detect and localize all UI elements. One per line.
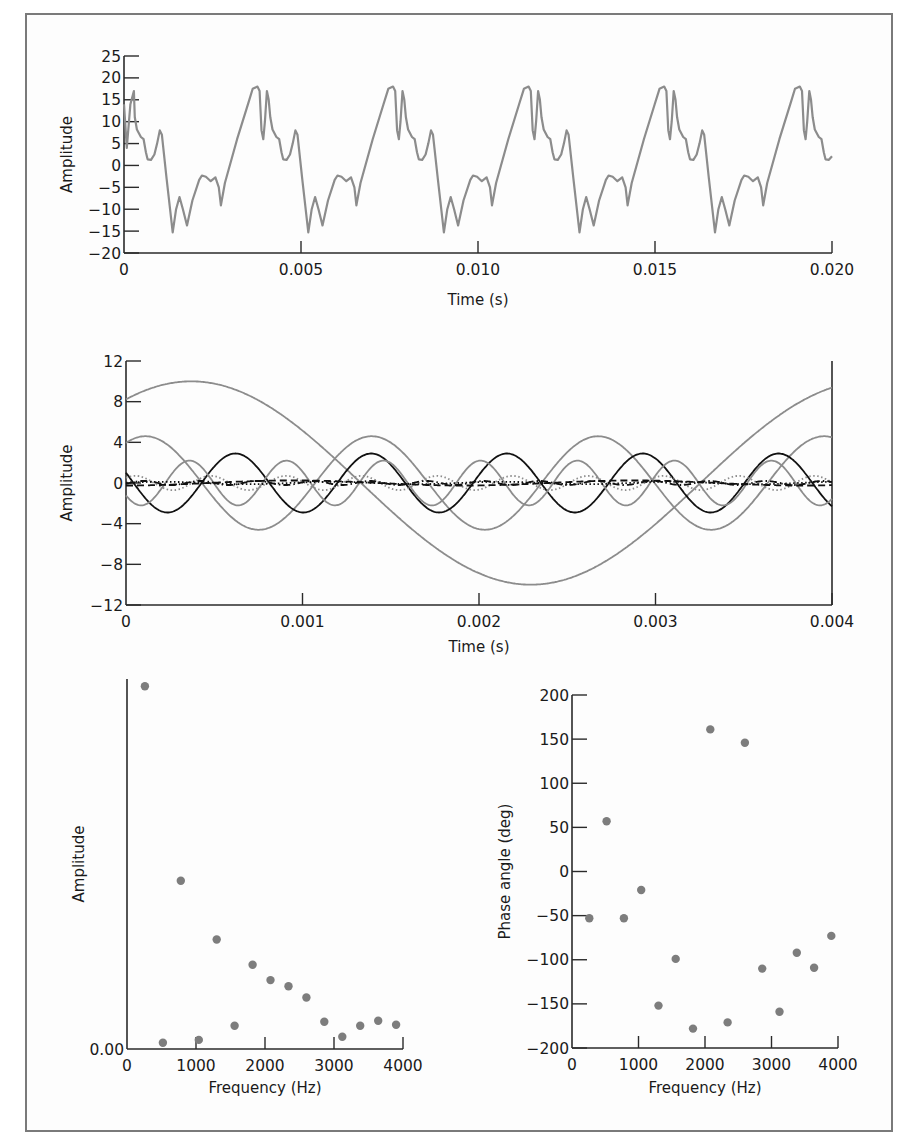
data-point	[654, 1001, 662, 1009]
x-tick-label: 3000	[314, 1057, 353, 1075]
x-tick-label: 0.005	[279, 261, 323, 279]
data-point	[827, 932, 835, 940]
y-tick-label: −5	[98, 179, 121, 197]
data-point	[672, 955, 680, 963]
figure-canvas: 2520151050−5−10−15−2000.0050.0100.0150.0…	[0, 0, 909, 1148]
x-tick-label: 0.004	[810, 613, 854, 631]
y-tick-label: −150	[526, 995, 569, 1013]
y-tick-label: 0	[111, 157, 121, 175]
data-point	[248, 961, 256, 969]
phase-spectrum-chart: 200150100500−50−100−150−2000100020003000…	[496, 687, 858, 1098]
data-point	[758, 964, 766, 972]
x-tick-label: 4000	[383, 1057, 422, 1075]
y-tick-label: −15	[88, 223, 121, 241]
y-tick-label: −200	[526, 1040, 569, 1058]
data-point	[338, 1033, 346, 1041]
y-tick-label: 8	[113, 393, 123, 411]
component-line-1040hz	[126, 482, 832, 484]
y-tick-label: 20	[101, 69, 121, 87]
y-tick-label: 0	[559, 863, 569, 881]
y-tick-label: −4	[100, 515, 123, 533]
data-point	[177, 877, 185, 885]
data-point	[141, 682, 149, 690]
y-tick-label: −50	[536, 907, 569, 925]
data-point	[356, 1022, 364, 1030]
data-point	[302, 993, 310, 1001]
y-tick-label: 50	[549, 819, 569, 837]
data-point	[689, 1024, 697, 1032]
x-axis-label: Time (s)	[448, 638, 510, 656]
x-axis-label: Frequency (Hz)	[648, 1079, 761, 1097]
data-point	[266, 976, 274, 984]
x-axis-label: Frequency (Hz)	[208, 1079, 321, 1097]
data-point	[706, 725, 714, 733]
data-point	[741, 739, 749, 747]
x-tick-label: 3000	[752, 1056, 791, 1074]
y-tick-label: −8	[100, 556, 123, 574]
x-tick-label: 0	[121, 613, 131, 631]
y-axis-label: Amplitude	[70, 826, 88, 903]
y-tick-label: 100	[539, 775, 569, 793]
data-point	[230, 1022, 238, 1030]
y-axis-label: Amplitude	[58, 116, 76, 193]
y-tick-label: 15	[101, 91, 121, 109]
y-tick-label: 150	[539, 731, 569, 749]
y-axis-label: Amplitude	[58, 445, 76, 522]
x-tick-label: 2000	[245, 1057, 284, 1075]
data-point	[159, 1039, 167, 1047]
y-tick-label: −12	[90, 597, 123, 615]
x-tick-label: 0	[119, 261, 129, 279]
y-tick-label: 25	[101, 48, 121, 66]
data-point	[213, 935, 221, 943]
data-point	[620, 914, 628, 922]
y-tick-label: 0.00	[89, 1041, 124, 1059]
x-tick-label: 0.002	[457, 613, 501, 631]
y-tick-label: 10	[101, 113, 121, 131]
y-tick-label: 0	[113, 475, 123, 493]
x-tick-label: 0	[122, 1057, 132, 1075]
data-point	[320, 1018, 328, 1026]
y-tick-label: −100	[526, 951, 569, 969]
x-tick-label: 1000	[619, 1056, 658, 1074]
x-tick-label: 0.020	[810, 261, 854, 279]
y-tick-label: 5	[111, 135, 121, 153]
x-axis-label: Time (s)	[447, 291, 509, 309]
x-tick-label: 0.010	[456, 261, 500, 279]
x-tick-label: 0.003	[633, 613, 677, 631]
data-point	[374, 1017, 382, 1025]
x-tick-label: 4000	[818, 1056, 857, 1074]
x-tick-label: 0.015	[633, 261, 677, 279]
amplitude-spectrum-chart: 0.0001000200030004000Frequency (Hz)Ampli…	[70, 679, 423, 1097]
x-tick-label: 0.001	[280, 613, 324, 631]
x-tick-label: 2000	[685, 1056, 724, 1074]
data-point	[723, 1018, 731, 1026]
data-point	[810, 964, 818, 972]
y-tick-label: −10	[88, 201, 121, 219]
components-chart: 12840−4−8−1200.0010.0020.0030.004Time (s…	[58, 353, 854, 657]
data-point	[793, 949, 801, 957]
y-axis-label: Phase angle (deg)	[496, 804, 514, 940]
y-tick-label: −20	[88, 245, 121, 263]
data-point	[585, 914, 593, 922]
x-tick-label: 1000	[176, 1057, 215, 1075]
data-point	[392, 1020, 400, 1028]
waveform-line	[124, 87, 832, 233]
data-point	[637, 886, 645, 894]
y-tick-label: 200	[539, 687, 569, 705]
y-tick-label: 12	[103, 353, 123, 371]
waveform-chart: 2520151050−5−10−15−2000.0050.0100.0150.0…	[58, 48, 854, 310]
data-point	[284, 982, 292, 990]
data-point	[602, 817, 610, 825]
data-point	[195, 1036, 203, 1044]
y-tick-label: 4	[113, 434, 123, 452]
x-tick-label: 0	[567, 1056, 577, 1074]
data-point	[775, 1008, 783, 1016]
